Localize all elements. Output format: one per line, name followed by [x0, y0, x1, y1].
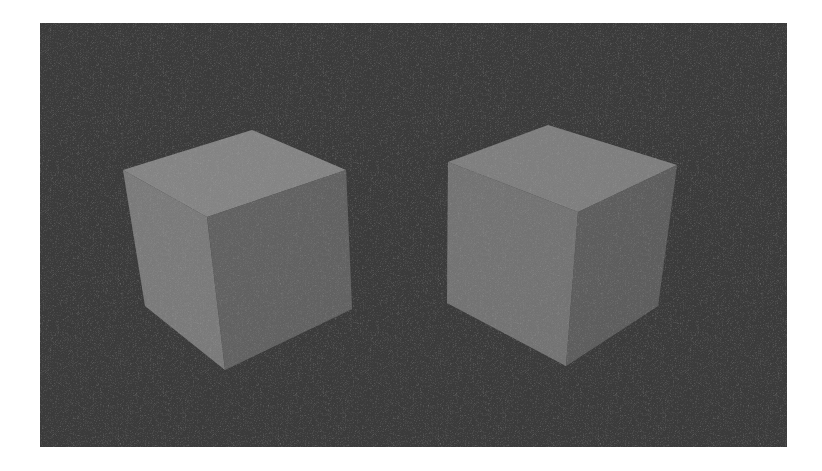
cube-scene	[0, 0, 822, 471]
figure-canvas	[0, 0, 822, 471]
